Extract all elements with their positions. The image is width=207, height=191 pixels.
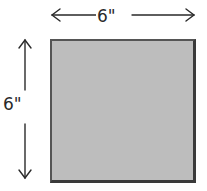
gray-square <box>50 39 196 183</box>
height-label: 6" <box>2 96 23 113</box>
square-dimension-diagram: 6" 6" <box>0 0 207 191</box>
width-label: 6" <box>96 8 117 25</box>
width-arrow-icon <box>52 9 194 21</box>
